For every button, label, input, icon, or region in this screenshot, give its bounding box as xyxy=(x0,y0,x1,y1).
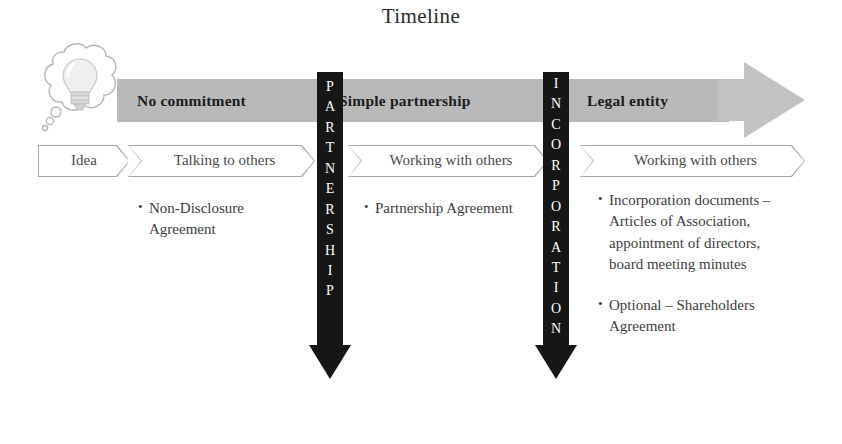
stage-idea-label: Idea xyxy=(38,145,130,176)
letter: P xyxy=(326,281,334,301)
stage-chevron-row: Idea Talking to others Working with othe… xyxy=(0,145,842,177)
bullet-item: Incorporation documents – Articles of As… xyxy=(598,190,794,275)
letter: I xyxy=(328,261,333,281)
thought-bubble xyxy=(34,40,126,136)
letter: O xyxy=(551,197,561,217)
letter: O xyxy=(551,135,561,155)
bullet-item: Optional – Shareholders Agreement xyxy=(598,295,794,338)
incorporation-arrow-letters: I N C O R P O R A T I O N xyxy=(543,74,569,340)
letter: R xyxy=(551,156,560,176)
letter: P xyxy=(326,77,334,97)
thought-bubble-svg xyxy=(34,40,126,136)
letter: I xyxy=(554,278,559,298)
phase-simple-partnership: Simple partnership xyxy=(339,79,471,122)
letter: A xyxy=(325,97,335,117)
vertical-arrow-partnership: P A R T N E R S H I P xyxy=(317,72,343,379)
letter: S xyxy=(326,220,334,240)
phase-band-arrowhead xyxy=(717,62,805,138)
letter: N xyxy=(551,319,561,339)
phase-no-commitment: No commitment xyxy=(137,79,246,122)
phase-legal-entity: Legal entity xyxy=(587,79,668,122)
letter: O xyxy=(551,299,561,319)
bullet-item: Non-Disclosure Agreement xyxy=(138,198,303,241)
bullets-simple-partnership: Partnership Agreement xyxy=(364,198,529,233)
stage-talking-to-others: Talking to others xyxy=(128,145,315,177)
phase-arrow-band: No commitment Simple partnership Legal e… xyxy=(117,62,805,138)
letter: R xyxy=(325,118,334,138)
bullets-no-commitment: Non-Disclosure Agreement xyxy=(138,198,303,255)
partnership-arrow-letters: P A R T N E R S H I P xyxy=(317,77,343,302)
letter: T xyxy=(326,138,335,158)
letter: I xyxy=(554,74,559,94)
stage-working-with-others-legal-entity-label: Working with others xyxy=(580,145,805,176)
partnership-arrow-head xyxy=(309,345,351,379)
page-title: Timeline xyxy=(0,4,842,29)
bullets-legal-entity: Incorporation documents – Articles of As… xyxy=(598,190,794,352)
letter: E xyxy=(326,179,335,199)
stage-working-with-others-partnership-label: Working with others xyxy=(348,145,548,176)
letter: R xyxy=(551,217,560,237)
stage-talking-to-others-label: Talking to others xyxy=(128,145,315,176)
bullet-item: Partnership Agreement xyxy=(364,198,529,219)
letter: C xyxy=(551,115,560,135)
letter: P xyxy=(552,176,560,196)
letter: A xyxy=(551,238,561,258)
letter: T xyxy=(552,258,561,278)
letter: N xyxy=(325,159,335,179)
vertical-arrow-incorporation: I N C O R P O R A T I O N xyxy=(543,72,569,379)
incorporation-arrow-head xyxy=(535,345,577,379)
letter: H xyxy=(325,241,335,261)
stage-working-with-others-legal-entity: Working with others xyxy=(580,145,805,177)
letter: R xyxy=(325,200,334,220)
stage-idea: Idea xyxy=(38,145,130,177)
letter: N xyxy=(551,94,561,114)
stage-working-with-others-partnership: Working with others xyxy=(348,145,548,177)
